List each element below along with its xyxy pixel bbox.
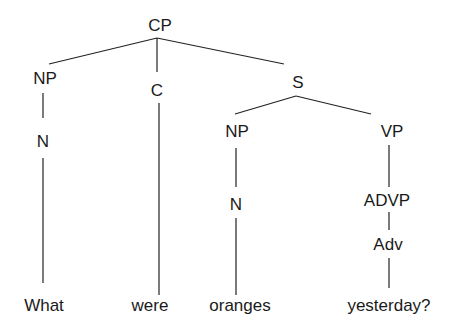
node-n-what: N xyxy=(37,132,49,151)
tree-words: What were oranges yesterday? xyxy=(24,296,430,315)
word-yesterday: yesterday? xyxy=(347,296,430,315)
node-advp: ADVP xyxy=(364,191,410,210)
tree-edges xyxy=(43,38,389,295)
node-np-subject: NP xyxy=(33,69,57,88)
node-n-oranges: N xyxy=(230,195,242,214)
edge-cp-np xyxy=(49,38,157,64)
word-were: were xyxy=(131,296,169,315)
edge-s-np xyxy=(235,96,296,114)
node-adv: Adv xyxy=(373,235,403,254)
word-oranges: oranges xyxy=(209,296,270,315)
edge-s-vp xyxy=(296,96,371,114)
node-vp: VP xyxy=(381,122,404,141)
node-s: S xyxy=(292,73,303,92)
edge-cp-s xyxy=(157,38,284,64)
node-c: C xyxy=(151,81,163,100)
node-cp: CP xyxy=(148,16,172,35)
node-np-oranges: NP xyxy=(225,122,249,141)
word-what: What xyxy=(24,296,64,315)
syntax-tree: CP NP C S N NP VP N ADVP Adv What were o… xyxy=(0,0,462,334)
